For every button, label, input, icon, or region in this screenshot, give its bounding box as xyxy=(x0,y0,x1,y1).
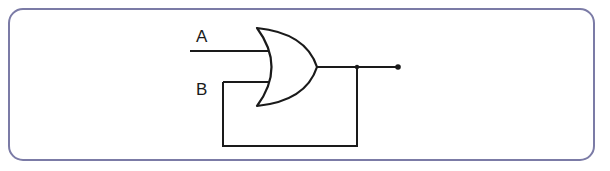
output-terminal-dot xyxy=(395,64,401,70)
or-gate-feedback-circuit: A B xyxy=(0,0,610,171)
input-b-label: B xyxy=(196,80,207,99)
or-gate-symbol xyxy=(257,28,317,106)
input-a-label: A xyxy=(196,27,208,46)
